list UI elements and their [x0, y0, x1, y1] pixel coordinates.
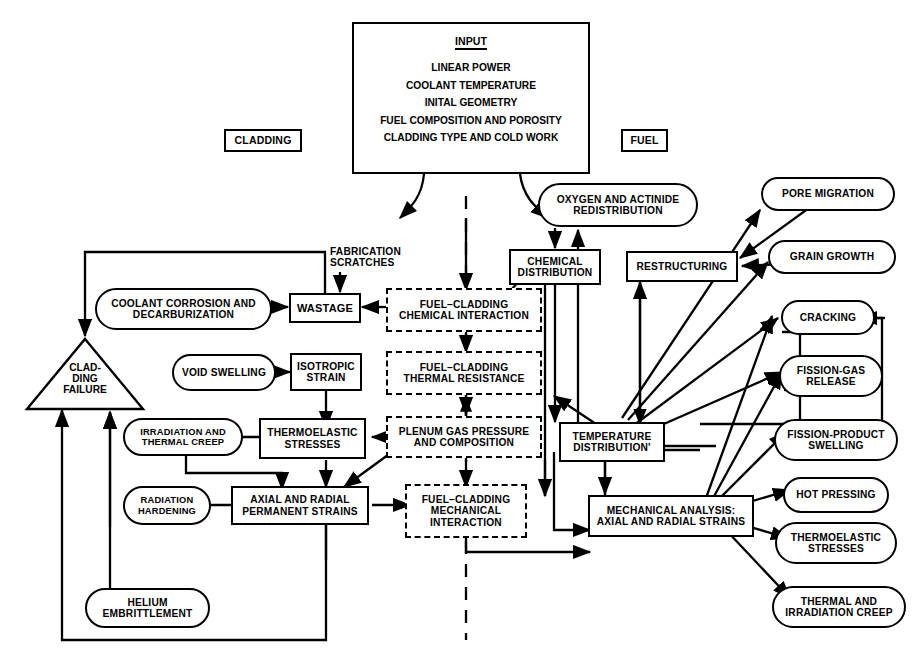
helium-l1: HELIUM — [127, 597, 167, 608]
section-tag-cladding-label: CLADDING — [234, 135, 291, 147]
fgr-l1: FISSION-GAS — [797, 365, 865, 376]
fcci-l1: FUEL–CLADDING — [420, 299, 509, 310]
grain-growth-label: GRAIN GROWTH — [790, 251, 874, 262]
node-fuel-cladding-thermal-resistance: FUEL–CLADDING THERMAL RESISTANCE — [386, 351, 542, 395]
input-item-initial-geometry: INITAL GEOMETRY — [425, 97, 518, 108]
node-irradiation-thermal-creep: IRRADIATION AND THERMAL CREEP — [123, 418, 243, 456]
fgr-l2: RELEASE — [806, 376, 856, 387]
hot-pressing-label: HOT PRESSING — [796, 489, 875, 500]
node-void-swelling: VOID SWELLING — [172, 354, 276, 391]
input-panel: INPUT LINEAR POWER COOLANT TEMPERATURE I… — [352, 22, 590, 174]
axial-radial-l1: AXIAL AND RADIAL — [250, 494, 349, 505]
mechanical-analysis-l1: MECHANICAL ANALYSIS: — [607, 505, 736, 516]
node-isotropic-strain: ISOTROPIC STRAIN — [290, 353, 362, 391]
plenum-l2: AND COMPOSITION — [414, 437, 514, 448]
radiation-hardening-l2: HARDENING — [138, 506, 196, 516]
tempdist-l1: TEMPERATURE — [573, 431, 652, 442]
node-fission-product-swelling: FISSION-PRODUCT SWELLING — [774, 419, 898, 461]
node-oxygen-actinide-redistribution: OXYGEN AND ACTINIDE REDISTRIBUTION — [538, 183, 698, 227]
node-fuel-cladding-chemical-interaction: FUEL–CLADDING CHEMICAL INTERACTION — [386, 288, 542, 332]
section-tag-fuel: FUEL — [621, 129, 668, 152]
helium-l2: EMBRITTLEMENT — [103, 608, 193, 619]
section-tag-fuel-label: FUEL — [630, 135, 658, 147]
node-plenum-gas-pressure: PLENUM GAS PRESSURE AND COMPOSITION — [386, 416, 542, 458]
node-mechanical-analysis: MECHANICAL ANALYSIS: AXIAL AND RADIAL ST… — [588, 495, 754, 537]
fcmi-l2: MECHANICAL — [431, 505, 501, 516]
node-thermal-irradiation-creep: THERMAL AND IRRADIATION CREEP — [772, 586, 906, 628]
node-axial-radial-permanent-strains: AXIAL AND RADIAL PERMANENT STRAINS — [231, 486, 369, 525]
fabrication-scratches-annotation: FABRICATION SCRATCHES — [330, 242, 446, 272]
node-grain-growth: GRAIN GROWTH — [768, 240, 896, 274]
input-item-coolant-temperature: COOLANT TEMPERATURE — [406, 80, 536, 91]
node-fuel-cladding-mechanical-interaction: FUEL–CLADDING MECHANICAL INTERACTION — [405, 484, 527, 538]
cracking-label: CRACKING — [800, 312, 857, 323]
tempdist-l2: DISTRIBUTION' — [573, 442, 650, 453]
tic-l1: THERMAL AND — [801, 596, 877, 607]
node-restructuring: RESTRUCTURING — [626, 251, 738, 282]
wastage-label: WASTAGE — [297, 302, 353, 314]
void-swelling-label: VOID SWELLING — [182, 367, 266, 378]
node-thermoelastic-stresses-fuel: THERMOELASTIC STRESSES — [775, 522, 897, 564]
fcmi-l3: INTERACTION — [430, 517, 502, 528]
node-helium-embrittlement: HELIUM EMBRITTLEMENT — [85, 588, 210, 628]
input-panel-items: LINEAR POWER COOLANT TEMPERATURE INITAL … — [380, 62, 562, 143]
section-tag-cladding: CLADDING — [224, 129, 302, 152]
input-item-cladding-type: CLADDING TYPE AND COLD WORK — [384, 132, 559, 143]
node-pore-migration: PORE MIGRATION — [761, 177, 895, 211]
fps-l2: SWELLING — [808, 440, 863, 451]
node-chemical-distribution: CHEMICAL DISTRIBUTION — [509, 249, 601, 285]
node-thermoelastic-stresses-cladding: THERMOELASTIC STRESSES — [259, 418, 366, 459]
axial-radial-l2: PERMANENT STRAINS — [242, 506, 357, 517]
node-cladding-failure: CLAD- DING FAILURE — [24, 336, 146, 412]
node-temperature-distribution: TEMPERATURE DISTRIBUTION' — [559, 422, 665, 462]
node-cracking: CRACKING — [781, 300, 875, 335]
thermoelastic-right-l1: THERMOELASTIC — [791, 532, 881, 543]
cladding-failure-l3: FAILURE — [24, 384, 146, 395]
fcci-l2: CHEMICAL INTERACTION — [399, 310, 529, 321]
fcmi-l1: FUEL–CLADDING — [422, 494, 511, 505]
coolant-corrosion-l2: DECARBURIZATION — [133, 309, 234, 320]
node-coolant-corrosion: COOLANT CORROSION AND DECARBURIZATION — [95, 288, 272, 330]
input-item-fuel-composition: FUEL COMPOSITION AND POROSITY — [380, 115, 562, 126]
node-hot-pressing: HOT PRESSING — [783, 477, 889, 513]
radiation-hardening-l1: RADIATION — [141, 495, 194, 505]
fps-l1: FISSION-PRODUCT — [787, 429, 885, 440]
coolant-corrosion-l1: COOLANT CORROSION AND — [111, 298, 256, 309]
fabrication-scratches-line2: SCRATCHES — [330, 257, 394, 268]
node-radiation-hardening: RADIATION HARDENING — [123, 486, 211, 525]
cladding-failure-l1: CLAD- — [24, 362, 146, 373]
fctr-l2: THERMAL RESISTANCE — [404, 373, 525, 384]
chemdist-l2: DISTRIBUTION — [518, 267, 593, 278]
restructuring-label: RESTRUCTURING — [637, 261, 728, 272]
fabrication-scratches-line1: FABRICATION — [330, 246, 401, 257]
irradiation-creep-l1: IRRADIATION AND — [140, 427, 226, 437]
thermoelastic-right-l2: STRESSES — [808, 543, 864, 554]
node-wastage: WASTAGE — [289, 293, 361, 323]
cladding-failure-l2: DING — [24, 373, 146, 384]
mechanical-analysis-l2: AXIAL AND RADIAL STRAINS — [597, 516, 745, 527]
node-cladding-failure-label: CLAD- DING FAILURE — [24, 362, 146, 396]
oxygen-l1: OXYGEN AND ACTINIDE — [557, 194, 679, 205]
plenum-l1: PLENUM GAS PRESSURE — [399, 426, 530, 437]
diagram-canvas: INPUT LINEAR POWER COOLANT TEMPERATURE I… — [0, 0, 920, 672]
fctr-l1: FUEL–CLADDING — [420, 362, 509, 373]
input-panel-title: INPUT — [455, 35, 487, 50]
isotropic-strain-l2: STRAIN — [306, 372, 345, 383]
chemdist-l1: CHEMICAL — [527, 256, 582, 267]
tic-l2: IRRADIATION CREEP — [785, 607, 892, 618]
pore-migration-label: PORE MIGRATION — [782, 188, 874, 199]
oxygen-l2: REDISTRIBUTION — [573, 205, 662, 216]
node-fission-gas-release: FISSION-GAS RELEASE — [779, 355, 883, 397]
isotropic-strain-l1: ISOTROPIC — [297, 361, 355, 372]
thermoelastic-left-l2: STRESSES — [285, 439, 341, 450]
thermoelastic-left-l1: THERMOELASTIC — [267, 427, 357, 438]
irradiation-creep-l2: THERMAL CREEP — [142, 437, 225, 447]
input-item-linear-power: LINEAR POWER — [431, 62, 510, 73]
